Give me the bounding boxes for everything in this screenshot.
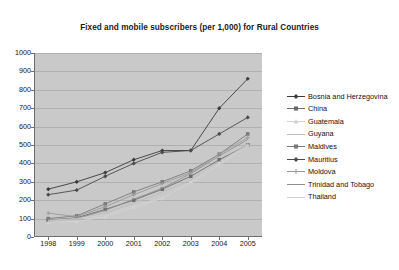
legend-marker-icon (286, 192, 306, 203)
legend-item[interactable]: Moldova (286, 166, 398, 179)
y-axis-tick (31, 71, 34, 72)
data-point-marker (103, 171, 107, 175)
data-point-marker (246, 115, 250, 119)
x-axis-tick-label: 2002 (154, 240, 170, 247)
data-point-marker (132, 158, 136, 162)
legend-label: Thailand (308, 193, 336, 200)
y-axis-tick (31, 127, 34, 128)
x-axis-tick-label: 2004 (211, 240, 227, 247)
y-axis-tick (31, 182, 34, 183)
chart-title: Fixed and mobile subscribers (per 1,000)… (0, 23, 399, 32)
legend-item[interactable]: Mauritius (286, 153, 398, 166)
legend-label: Maldives (308, 143, 337, 150)
y-axis-tick-label: 300 (19, 178, 31, 185)
y-axis-tick-label: 200 (19, 197, 31, 204)
legend-label: Trinidad and Tobago (308, 181, 374, 188)
x-axis-tick (77, 237, 78, 240)
x-axis-tick-label: 1998 (40, 240, 56, 247)
y-axis-tick-label: 100 (19, 215, 31, 222)
data-point-marker (189, 174, 193, 178)
x-axis-tick (105, 237, 106, 240)
x-axis-tick (134, 237, 135, 240)
data-series (46, 136, 250, 219)
y-axis-tick (31, 90, 34, 91)
legend-item[interactable]: China (286, 103, 398, 116)
x-axis-tick (248, 237, 249, 240)
y-axis-tick-label: 400 (19, 160, 31, 167)
legend-item[interactable]: Guatemala (286, 115, 398, 128)
y-axis-tick-label: 600 (19, 123, 31, 130)
x-axis-tick-label: 2001 (126, 240, 142, 247)
x-axis-tick-label: 2005 (240, 240, 256, 247)
legend-item[interactable]: Thailand (286, 191, 398, 204)
y-axis-tick (31, 219, 34, 220)
legend-item[interactable]: Guyana (286, 128, 398, 141)
legend-label: Mauritius (308, 156, 338, 163)
data-point-marker (46, 187, 50, 191)
legend-marker-icon (286, 179, 306, 190)
legend-marker-icon (286, 116, 306, 127)
legend-marker-icon (286, 103, 306, 114)
y-axis-tick-label: 800 (19, 86, 31, 93)
legend-label: Bosnia and Herzegovina (308, 93, 388, 100)
legend-item[interactable]: Bosnia and Herzegovina (286, 90, 398, 103)
data-point-marker (75, 188, 79, 192)
data-point-marker (217, 132, 221, 136)
legend-item[interactable]: Trinidad and Tobago (286, 178, 398, 191)
y-axis-tick (31, 145, 34, 146)
y-axis-tick-label: 700 (19, 105, 31, 112)
data-point-marker (246, 136, 250, 140)
series-line (48, 134, 248, 219)
data-point-marker (246, 132, 250, 136)
y-axis-tick (31, 200, 34, 201)
data-series (48, 139, 248, 219)
series-line (48, 138, 248, 217)
data-point-marker (75, 180, 79, 184)
legend-marker-icon (286, 154, 306, 165)
legend-label: Moldova (308, 168, 336, 175)
legend-marker-icon (286, 91, 306, 102)
series-line (48, 117, 248, 194)
legend-item[interactable]: Maldives (286, 140, 398, 153)
x-axis-tick (191, 237, 192, 240)
legend-label: Guyana (308, 130, 334, 137)
series-line (48, 139, 248, 219)
x-axis-tick-label: 1999 (69, 240, 85, 247)
x-axis-tick-label: 2000 (97, 240, 113, 247)
x-axis-tick (48, 237, 49, 240)
chart-container: Fixed and mobile subscribers (per 1,000)… (0, 0, 399, 270)
chart-legend: Bosnia and HerzegovinaChinaGuatemalaGuya… (286, 90, 398, 203)
x-axis-tick (219, 237, 220, 240)
legend-label: China (308, 105, 327, 112)
legend-marker-icon (286, 166, 306, 177)
data-series (46, 132, 249, 220)
y-axis-tick (31, 237, 34, 238)
y-axis-tick-label: 500 (19, 141, 31, 148)
legend-marker-icon (286, 141, 306, 152)
data-point-marker (46, 211, 50, 215)
legend-marker-icon (286, 129, 306, 140)
y-axis-tick (31, 163, 34, 164)
series-layer (34, 53, 262, 237)
data-point-marker (132, 161, 136, 165)
x-axis-labels: 19981999200020012002200320042005 (34, 240, 262, 254)
y-axis-tick-label: 900 (19, 68, 31, 75)
data-point-marker (46, 193, 50, 197)
data-point-marker (103, 174, 107, 178)
y-axis-tick (31, 53, 34, 54)
legend-label: Guatemala (308, 118, 344, 125)
y-axis-tick (31, 108, 34, 109)
y-axis-tick-label: 1000 (15, 49, 31, 56)
y-axis-labels: 10009008007006005004003002001000 (0, 53, 31, 237)
x-axis-tick (162, 237, 163, 240)
gridline (35, 237, 262, 238)
x-axis-tick-label: 2003 (183, 240, 199, 247)
series-line (48, 145, 248, 220)
